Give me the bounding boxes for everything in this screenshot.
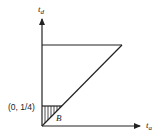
point-label: (0, 1/4): [8, 102, 35, 112]
x-axis-label: ta: [146, 120, 153, 132]
y-axis-label: td: [38, 4, 45, 16]
diagram-canvas: td ta (0, 1/4) B: [0, 0, 162, 137]
region-label-b: B: [56, 113, 62, 123]
